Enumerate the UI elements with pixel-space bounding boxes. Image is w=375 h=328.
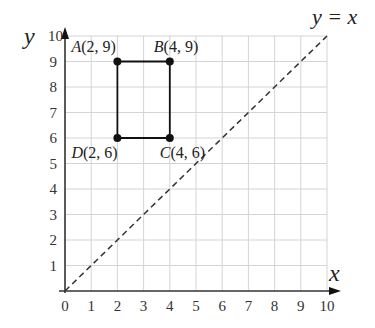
point-label-a: A(2, 9) <box>70 38 115 56</box>
x-tick-label: 8 <box>271 298 279 314</box>
points: A(2, 9)B(4, 9)C(4, 6)D(2, 6) <box>70 38 205 163</box>
point-coordinates: (4, 9) <box>164 38 199 56</box>
y-tick-label: 2 <box>50 232 58 248</box>
x-tick-label: 9 <box>297 298 305 314</box>
point-label-b: B(4, 9) <box>154 38 198 56</box>
x-tick-label: 6 <box>218 298 226 314</box>
x-axis-arrow-icon <box>329 287 341 295</box>
x-tick-label: 7 <box>245 298 253 314</box>
line-equation-label: y = x <box>310 4 358 29</box>
x-tick-label: 4 <box>166 298 174 314</box>
point-coordinates: (2, 9) <box>81 38 116 56</box>
y-tick-label: 7 <box>50 105 58 121</box>
coordinate-plane: 01234567891012345678910 A(2, 9)B(4, 9)C(… <box>0 0 375 328</box>
x-tick-label: 0 <box>61 298 69 314</box>
point-label-d: D(2, 6) <box>70 144 117 162</box>
point-name: C <box>160 144 171 161</box>
y-tick-label: 9 <box>50 54 58 70</box>
x-axis-label: x <box>328 260 340 286</box>
y-tick-label: 8 <box>50 79 58 95</box>
x-tick-label: 10 <box>320 298 335 314</box>
point-coordinates: (4, 6) <box>170 144 205 162</box>
x-tick-label: 5 <box>192 298 200 314</box>
y-tick-label: 10 <box>48 28 63 44</box>
point-name: D <box>70 144 83 161</box>
point-a <box>113 58 121 66</box>
y-axis-label: y <box>22 23 35 49</box>
y-tick-label: 5 <box>50 156 58 172</box>
point-name: A <box>70 38 81 55</box>
y-tick-label: 3 <box>50 207 58 223</box>
point-coordinates: (2, 6) <box>83 144 118 162</box>
y-tick-label: 4 <box>50 181 58 197</box>
x-tick-label: 3 <box>140 298 148 314</box>
y-tick-label: 6 <box>50 130 58 146</box>
point-name: B <box>154 38 164 55</box>
point-label-c: C(4, 6) <box>160 144 205 162</box>
x-tick-label: 1 <box>87 298 95 314</box>
point-b <box>166 58 174 66</box>
y-tick-label: 1 <box>50 258 58 274</box>
point-d <box>113 134 121 142</box>
point-c <box>166 134 174 142</box>
x-tick-label: 2 <box>114 298 122 314</box>
